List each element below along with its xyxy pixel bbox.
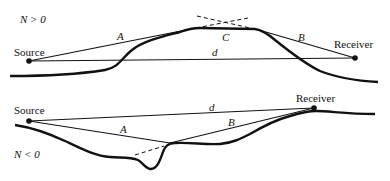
bottom-label-a: A [119,123,127,135]
top-tangent-dashed-1 [196,18,248,28]
bottom-condition-label: N < 0 [13,148,40,160]
top-source-dot [26,58,32,64]
top-terrain [10,28,378,82]
bottom-path-a [29,121,170,143]
bottom-label-b: B [228,116,235,128]
top-path-d [29,58,355,61]
bottom-receiver-label: Receiver [296,92,335,104]
top-label-b: B [298,31,305,43]
top-receiver-dot [352,55,358,61]
bottom-source-dot [26,118,32,124]
top-label-a: A [116,30,124,42]
bottom-tangent-dashed [135,146,164,155]
top-path-a [29,28,196,61]
top-label-c: C [222,31,230,43]
bottom-receiver-dot [311,105,317,111]
bottom-source-label: Source [14,104,45,116]
diffraction-diagram: N > 0 Source Receiver A C B d Source Rec… [0,0,390,181]
top-label-d: d [212,46,218,58]
top-receiver-label: Receiver [334,38,373,50]
top-panel: N > 0 Source Receiver A C B d [10,13,378,82]
top-condition-label: N > 0 [19,13,46,25]
bottom-panel: Source Receiver N < 0 A B d [13,92,375,169]
bottom-label-d: d [209,101,215,113]
top-source-label: Source [14,46,45,58]
bottom-path-d [29,108,314,121]
